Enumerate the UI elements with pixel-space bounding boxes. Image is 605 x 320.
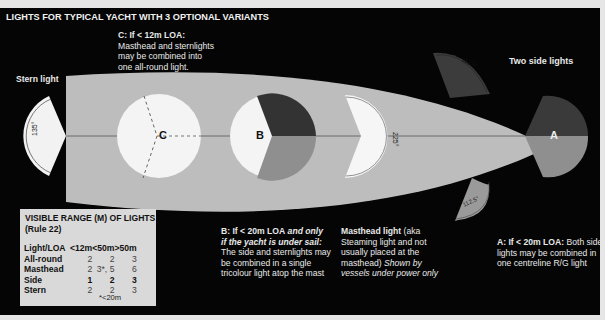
cell: 2 (70, 254, 92, 265)
note-a: A: If < 20m LOA: Both side lights may be… (497, 237, 602, 269)
two-side-lights-label: Two side lights (509, 56, 573, 67)
marker-c: C (159, 130, 167, 141)
note-c-line: may be combined into (118, 51, 214, 62)
row-label: Stern (24, 285, 70, 296)
note-a-line: one centreline R/G light (497, 258, 602, 269)
note-masthead-italic: vessels under power only (341, 268, 438, 279)
starboard-sector-ghost: 112.5° (455, 178, 489, 221)
note-b-heading: B: If < 20m LOA (221, 226, 285, 236)
note-b-line: be combined in a single (221, 258, 331, 269)
cell: 6 (114, 264, 136, 275)
visible-range-table: VISIBLE RANGE (M) OF LIGHTS (Rule 22) Li… (20, 209, 156, 306)
column-header: >50m (114, 243, 136, 254)
note-b-line: The side and sternlights may (221, 247, 331, 258)
table-heading-line2: (Rule 22) (25, 224, 155, 235)
note-c-heading: C: If < 12m LOA: (118, 30, 214, 41)
table-row: Masthead 2 3*, 5 6 (24, 264, 137, 275)
cell: 3*, 5 (92, 264, 114, 275)
row-label: Masthead (24, 264, 70, 275)
port-sector-ghost: 112.5° (433, 53, 490, 98)
note-masthead-line: usually placed at the (341, 247, 438, 258)
note-c: C: If < 12m LOA: Masthead and sternlight… (118, 30, 214, 72)
cell: 2 (92, 275, 114, 286)
table-row: All-round 2 2 3 (24, 254, 137, 265)
note-masthead-heading-tail: (aka (401, 226, 420, 236)
note-c-line: one all-round light. (118, 62, 214, 73)
row-label: Side (24, 275, 70, 286)
marker-a: A (550, 130, 558, 141)
table-heading: VISIBLE RANGE (M) OF LIGHTS (Rule 22) (25, 213, 155, 234)
svg-text:225°: 225° (392, 132, 399, 147)
cell: 2 (70, 264, 92, 275)
cell: 3 (114, 254, 136, 265)
row-label: All-round (24, 254, 70, 265)
note-a-heading-tail: Both side (564, 237, 602, 247)
note-b-line: tricolour light atop the mast (221, 268, 331, 279)
note-masthead-heading: Masthead light (341, 226, 401, 236)
stern-light-label: Stern light (16, 74, 59, 85)
column-header: <50m (92, 243, 114, 254)
svg-text:135°: 135° (31, 121, 38, 136)
cell: 3 (114, 275, 136, 286)
marker-b: B (256, 130, 264, 141)
table-heading-line1: VISIBLE RANGE (M) OF LIGHTS (25, 213, 155, 224)
note-b-condition: if the yacht is under sail: (221, 237, 331, 248)
cell: 2 (92, 254, 114, 265)
note-c-line: Masthead and sternlights (118, 41, 214, 52)
table-footnote: *<20m (99, 293, 121, 302)
range-table: Light/LOA <12m <50m >50m All-round 2 2 3… (24, 243, 137, 296)
cell: 2 (70, 285, 92, 296)
column-header: Light/LOA (24, 243, 70, 254)
note-a-heading: A: If < 20m LOA: (497, 237, 564, 247)
table-row: Side 1 2 3 (24, 275, 137, 286)
column-header: <12m (70, 243, 92, 254)
table-header-row: Light/LOA <12m <50m >50m (24, 243, 137, 254)
note-masthead: Masthead light (aka Steaming light and n… (341, 226, 438, 279)
note-b: B: If < 20m LOA and only if the yacht is… (221, 226, 331, 279)
diagram-title: LIGHTS FOR TYPICAL YACHT WITH 3 OPTIONAL… (6, 12, 269, 23)
note-masthead-italic: Shown by (382, 258, 422, 268)
note-b-heading-italic: and only (285, 226, 323, 236)
note-masthead-line: masthead) (341, 258, 382, 268)
note-masthead-line: Steaming light and not (341, 237, 438, 248)
stern-light-sector: 135° (23, 96, 66, 176)
note-a-line: lights may be combined in (497, 248, 602, 259)
cell: 1 (70, 275, 92, 286)
